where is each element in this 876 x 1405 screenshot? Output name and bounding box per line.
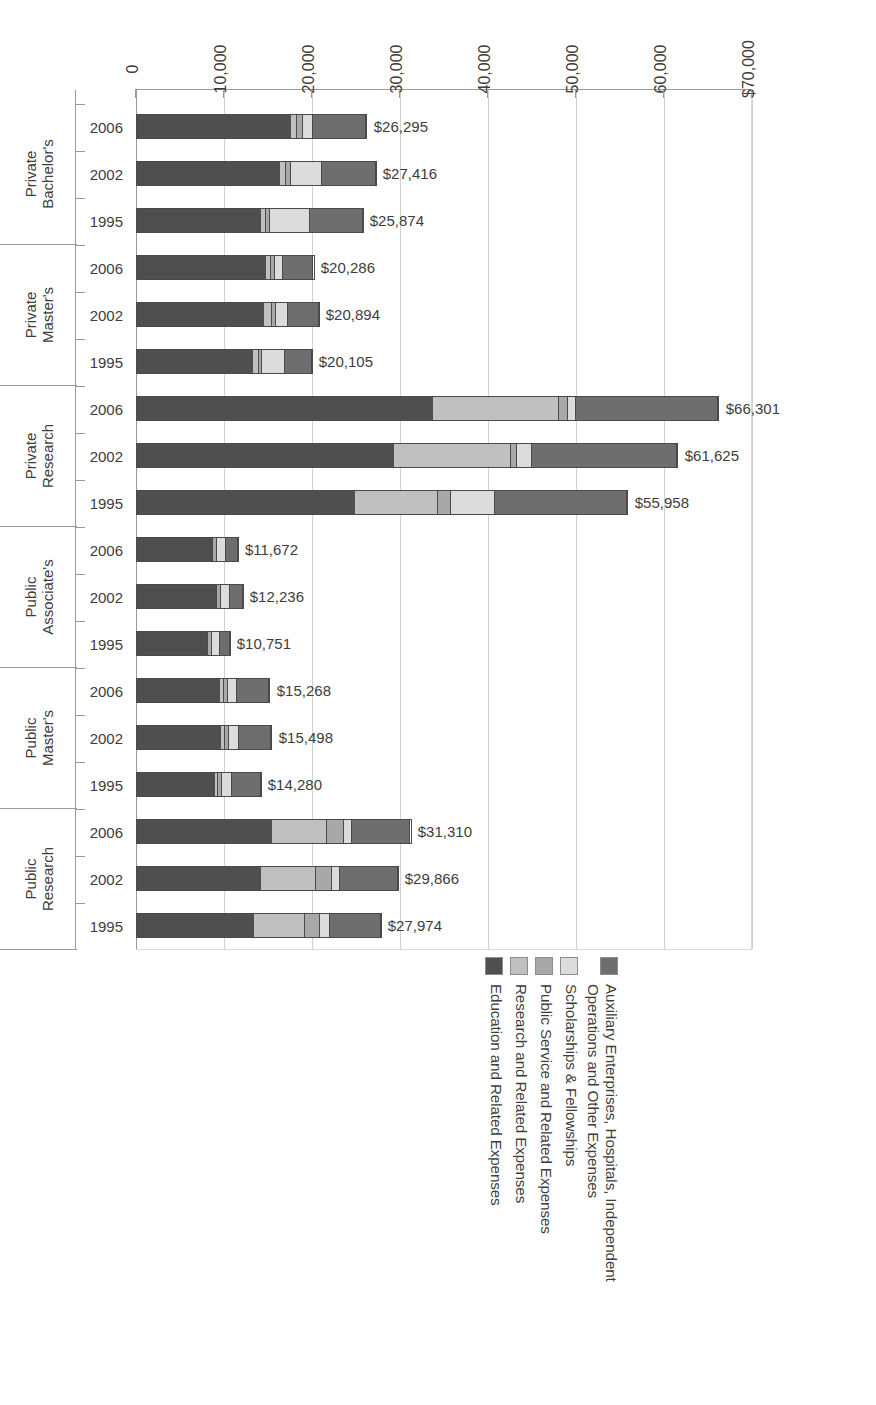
bar-segment <box>261 209 266 232</box>
axis-tick <box>76 245 85 246</box>
legend-item[interactable]: Education and Related Expenses <box>485 957 505 1405</box>
bar-stacked[interactable] <box>136 584 244 609</box>
bar-stacked[interactable] <box>136 114 367 139</box>
bar-segment <box>532 444 677 467</box>
chart-figure: Auxiliary Enterprises, Hospitals, Indepe… <box>0 0 876 1405</box>
bar-stacked[interactable] <box>136 725 272 750</box>
bar-value-label: $20,286 <box>321 255 375 280</box>
legend-swatch-icon <box>535 957 553 975</box>
year-text: 2006 <box>89 824 122 841</box>
group-label-text: Public Associate's <box>22 559 56 636</box>
year-text: 2002 <box>89 871 122 888</box>
legend-item[interactable]: Public Service and Related Expenses <box>535 957 555 1405</box>
year-text: 2002 <box>89 730 122 747</box>
value-tick: 20,000 <box>267 1 357 89</box>
value-tick-label: 60,000 <box>652 24 670 114</box>
bar-segment <box>303 115 313 138</box>
bar-segment <box>285 350 312 373</box>
bar-segment <box>276 303 288 326</box>
bar-stacked[interactable] <box>136 396 719 421</box>
bar-segment <box>291 162 322 185</box>
bar-value-label: $55,958 <box>634 490 688 515</box>
bar-segment <box>217 538 225 561</box>
bar-segment <box>230 585 243 608</box>
axis-tick <box>76 903 85 904</box>
year-text: 2002 <box>89 448 122 465</box>
value-tick: 10,000 <box>179 1 269 89</box>
value-tick: $70,000 <box>707 1 797 89</box>
bar-segment <box>137 820 272 843</box>
bar-segment <box>213 538 217 561</box>
bar-segment <box>272 303 276 326</box>
legend-item[interactable]: Auxiliary Enterprises, Hospitals, Indepe… <box>585 957 620 1405</box>
bar-segment <box>239 726 271 749</box>
group-label: Private Master's <box>0 245 77 386</box>
bar-segment <box>215 773 218 796</box>
bar-segment <box>137 444 394 467</box>
bar-segment <box>320 914 330 937</box>
year-tick-label: 2006 <box>77 679 135 704</box>
bar-stacked[interactable] <box>136 678 270 703</box>
year-text: 1995 <box>89 213 122 230</box>
value-axis-tick-mark <box>751 89 752 98</box>
bar-segment <box>433 397 559 420</box>
bar-segment <box>330 914 381 937</box>
bar-stacked[interactable] <box>136 913 382 938</box>
bar-value-label: $10,751 <box>237 631 291 656</box>
bar-stacked[interactable] <box>136 255 315 280</box>
legend-item[interactable]: Scholarships & Fellowships <box>560 957 580 1405</box>
value-axis-tick-mark <box>487 89 488 98</box>
bar-stacked[interactable] <box>136 490 628 515</box>
bar-stacked[interactable] <box>136 208 364 233</box>
bar-value-label: $27,974 <box>388 913 442 938</box>
legend-item[interactable]: Research and Related Expenses <box>510 957 530 1405</box>
bar-segment <box>316 867 332 890</box>
bar-value-label: $29,866 <box>405 866 459 891</box>
legend-item-label: Scholarships & Fellowships <box>563 984 581 1166</box>
bar-stacked[interactable] <box>136 772 262 797</box>
bar-value-label: $12,236 <box>250 584 304 609</box>
value-tick: 0 <box>91 1 181 89</box>
category-axis-groups: Public ResearchPublic Master'sPublic Ass… <box>0 90 77 950</box>
value-tick-label: 10,000 <box>212 24 230 114</box>
bar-segment <box>221 585 230 608</box>
value-axis-tick-mark <box>311 89 312 98</box>
bar-segment <box>137 256 266 279</box>
bar-segment <box>137 303 264 326</box>
bar-segment <box>137 867 261 890</box>
bar-stacked[interactable] <box>136 302 320 327</box>
value-tick-label: 20,000 <box>300 24 318 114</box>
bar-stacked[interactable] <box>136 349 313 374</box>
bar-value-label: $11,672 <box>245 537 298 562</box>
bar-stacked[interactable] <box>136 631 231 656</box>
bar-stacked[interactable] <box>136 443 678 468</box>
year-text: 1995 <box>89 777 122 794</box>
bar-value-label: $66,301 <box>725 396 779 421</box>
bar-stacked[interactable] <box>136 537 239 562</box>
year-tick-label: 2002 <box>77 162 135 187</box>
year-text: 1995 <box>89 636 122 653</box>
axis-tick <box>76 809 85 810</box>
bar-segment <box>344 820 352 843</box>
axis-tick <box>76 151 85 152</box>
bar-segment <box>259 350 262 373</box>
group-label-text: Private Master's <box>22 277 56 354</box>
value-axis-ticks: $70,00060,00050,00040,00030,00020,00010,… <box>0 0 876 89</box>
bar-stacked[interactable] <box>136 819 412 844</box>
axis-tick <box>76 668 85 669</box>
bar-segment <box>228 679 237 702</box>
bar-stacked[interactable] <box>136 866 399 891</box>
year-text: 1995 <box>89 354 122 371</box>
bar-segment <box>261 867 316 890</box>
bar-segment <box>275 256 283 279</box>
bar-value-label: $15,268 <box>276 678 330 703</box>
value-axis-tick-mark <box>399 89 400 98</box>
legend-swatch-icon <box>560 957 578 975</box>
year-tick-label: 2002 <box>77 726 135 751</box>
bar-segment <box>270 209 309 232</box>
group-label: Private Research <box>0 386 77 527</box>
bar-segment <box>305 914 320 937</box>
bar-segment <box>266 256 271 279</box>
bar-stacked[interactable] <box>136 161 377 186</box>
group-label: Private Bachelor's <box>0 104 77 245</box>
